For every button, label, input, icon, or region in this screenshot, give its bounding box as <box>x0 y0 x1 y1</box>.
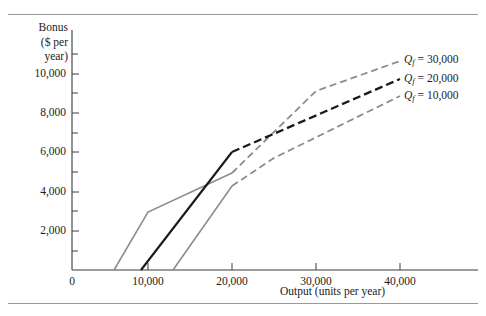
y-axis-title: Bonus ($ per year) <box>6 20 68 64</box>
series-line-qf-10000-solid <box>173 186 232 270</box>
x-axis-title: Output (units per year) <box>280 285 385 297</box>
x-tick-label-10000: 10,000 <box>118 275 178 288</box>
series-line-qf-30000-dashed <box>232 61 400 173</box>
x-axis-ticks <box>148 263 400 270</box>
series-line-qf-20000-dashed <box>232 79 400 152</box>
series-line-qf-30000-solid <box>114 173 232 270</box>
y-axis-major-ticks <box>72 74 79 231</box>
chart-plot-area <box>0 0 486 316</box>
series-label-qf-30000: Qf = 30,000 <box>404 53 459 65</box>
series-label-qf-10000-subscript: f <box>412 93 414 103</box>
series-label-qf-20000-value: = 20,000 <box>415 72 459 84</box>
y-axis-title-line-2: ($ per <box>6 35 68 50</box>
y-tick-label-10000: 10,000 <box>8 67 66 80</box>
y-axis-title-line-1: Bonus <box>6 20 68 35</box>
y-tick-label-4000: 4,000 <box>8 185 66 198</box>
series-label-qf-10000: Qf = 10,000 <box>404 89 459 101</box>
x-tick-label-20000: 20,000 <box>202 275 262 288</box>
series-line-qf-20000-solid <box>141 152 232 270</box>
y-tick-label-2000: 2,000 <box>8 224 66 237</box>
y-axis-title-line-3: year) <box>6 49 68 64</box>
series-label-qf-30000-value: = 30,000 <box>415 53 459 65</box>
x-tick-label-0: 0 <box>42 275 102 288</box>
series-label-qf-20000-subscript: f <box>412 76 414 86</box>
series-label-qf-20000: Qf = 20,000 <box>404 72 459 84</box>
bonus-output-figure: Bonus ($ per year) 10,000 8,000 6,000 4,… <box>0 0 486 316</box>
y-tick-label-6000: 6,000 <box>8 145 66 158</box>
y-tick-label-8000: 8,000 <box>8 106 66 119</box>
series-label-qf-30000-subscript: f <box>412 57 414 67</box>
series-label-qf-10000-value: = 10,000 <box>415 89 459 101</box>
